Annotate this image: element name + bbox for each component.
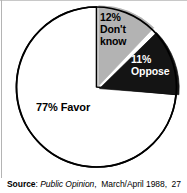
source-lead-label: Source xyxy=(7,179,36,189)
slice-label-dont-know-line2: know xyxy=(100,35,126,47)
chart-plot-area: 77% Favor 12%Don'tknow 11%Oppose xyxy=(0,0,187,172)
slice-label-oppose: 11%Oppose xyxy=(131,54,170,78)
slice-label-oppose-percent: 11% xyxy=(131,53,151,65)
slice-label-oppose-name: Oppose xyxy=(131,65,170,77)
pie-chart-figure: 77% Favor 12%Don'tknow 11%Oppose Source:… xyxy=(0,0,187,193)
slice-label-dont-know: 12%Don'tknow xyxy=(100,12,126,47)
pie-chart-svg xyxy=(0,0,187,172)
slice-label-dont-know-percent: 12% xyxy=(100,11,121,23)
source-citation-rest: , March/April 1988, 27 xyxy=(94,179,181,189)
slice-label-favor: 77% Favor xyxy=(36,101,90,113)
source-caption: Source: Public Opinion, March/April 1988… xyxy=(7,179,181,189)
source-publication: Public Opinion xyxy=(40,179,94,189)
slice-label-dont-know-line1: Don't xyxy=(100,23,126,35)
